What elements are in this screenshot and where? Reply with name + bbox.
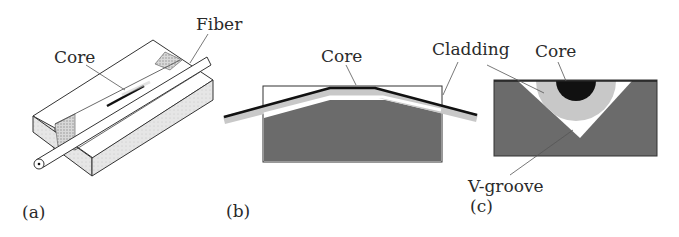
panel-c-caption: (c) xyxy=(470,196,493,216)
diagram-canvas: Core Fiber (a) Core Cladding (b) xyxy=(0,0,679,237)
panel-b-cladding-label: Cladding xyxy=(432,39,510,59)
panel-a-core-label: Core xyxy=(54,47,95,67)
panel-b-cladding-leader xyxy=(443,62,458,95)
panel-b-caption: (b) xyxy=(226,201,250,221)
panel-a-caption: (a) xyxy=(22,202,45,222)
panel-a-fiber-label: Fiber xyxy=(196,14,243,34)
panel-c-core-leader xyxy=(558,62,566,81)
panel-c-vgroove-label: V-groove xyxy=(467,176,544,196)
panel-b-core-label: Core xyxy=(321,46,362,66)
panel-c-core-label: Core xyxy=(535,41,576,61)
panel-b-core-leader xyxy=(346,65,356,85)
